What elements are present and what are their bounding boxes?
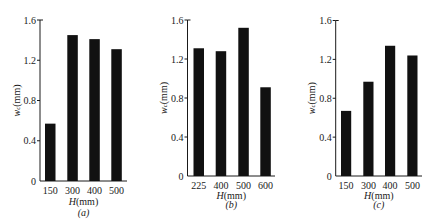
y-tick-label: 1.2 [171, 54, 184, 65]
y-axis-label-unit: (mm) [11, 85, 23, 107]
bar [407, 55, 417, 176]
panel-subcaption: (c) [373, 199, 385, 211]
y-tick-label: 0.4 [319, 132, 332, 143]
bar [238, 28, 249, 176]
bar [216, 51, 227, 176]
y-tick-label: 1.2 [24, 55, 37, 66]
y-tick-label: 0.8 [24, 95, 37, 106]
x-tick-label: 150 [339, 180, 354, 191]
x-tick-label: 500 [405, 180, 420, 191]
x-tick-label: 400 [87, 185, 102, 196]
x-tick-label: 600 [258, 180, 273, 191]
y-tick-label: 0 [31, 176, 36, 187]
y-tick-label: 0 [179, 171, 184, 182]
x-tick-label: 300 [65, 185, 80, 196]
y-tick-label: 1.6 [24, 15, 37, 26]
y-tick-label: 0 [327, 171, 332, 182]
bar [260, 87, 271, 176]
y-axis-label-unit: (mm) [158, 82, 170, 104]
bar [341, 111, 351, 176]
bar [363, 82, 373, 176]
panel-subcaption: (b) [225, 199, 237, 211]
bar [45, 124, 56, 181]
y-tick-label: 0.4 [24, 135, 37, 146]
y-axis-label: wc(mm) [11, 85, 23, 117]
y-tick-label: 1.6 [171, 15, 184, 26]
bar [67, 35, 78, 181]
y-axis-label: wc(mm) [306, 82, 318, 114]
bar-chart-figure: 00.40.81.21.6150300400500H(mm)wc(mm)(a) … [0, 0, 436, 224]
y-axis-label: wc(mm) [158, 82, 170, 114]
y-axis-label-unit: (mm) [306, 82, 318, 104]
panel-subcaption: (a) [78, 207, 90, 219]
y-tick-label: 0.8 [319, 93, 332, 104]
bar [385, 46, 395, 176]
bar [89, 39, 100, 181]
y-tick-label: 1.2 [319, 54, 332, 65]
x-tick-label: 500 [109, 185, 124, 196]
bar [194, 48, 205, 176]
x-tick-label: 225 [191, 180, 206, 191]
y-tick-label: 1.6 [319, 15, 332, 26]
bar [111, 49, 122, 181]
y-tick-label: 0.4 [171, 132, 184, 143]
y-tick-label: 0.8 [171, 93, 184, 104]
x-tick-label: 150 [43, 185, 58, 196]
